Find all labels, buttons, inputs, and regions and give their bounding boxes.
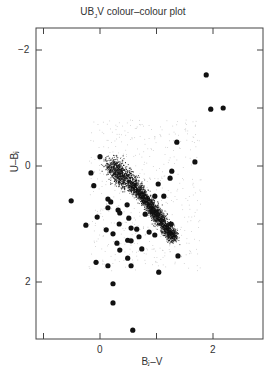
y-tick-0: 0 <box>25 160 31 171</box>
quasar-point <box>126 216 131 221</box>
quasar-point <box>83 223 88 228</box>
quasar-point <box>97 154 102 159</box>
quasar-point <box>108 199 113 204</box>
quasar-point <box>114 241 119 246</box>
quasar-point <box>156 181 161 186</box>
quasar-point <box>152 194 157 199</box>
y-tick-minus2: −2 <box>18 44 29 55</box>
star-locus-cloud <box>89 120 202 272</box>
quasar-point <box>93 260 98 265</box>
quasar-point <box>149 209 154 214</box>
axis-ticks <box>36 28 263 339</box>
quasar-point <box>221 105 226 110</box>
quasar-point <box>169 221 174 226</box>
quasar-point <box>110 231 115 236</box>
x-tick-2: 2 <box>210 344 216 355</box>
quasar-point <box>110 300 115 305</box>
quasar-point <box>91 183 96 188</box>
y-axis-label: U–Bⱼ <box>9 142 20 182</box>
quasar-point <box>134 227 139 232</box>
quasar-point <box>169 169 174 174</box>
quasar-point <box>128 263 133 268</box>
quasar-point <box>174 140 179 145</box>
quasar-point <box>104 227 109 232</box>
quasar-point <box>139 246 144 251</box>
quasar-point <box>117 248 122 253</box>
quasar-point <box>128 238 133 243</box>
quasar-point <box>167 176 172 181</box>
quasar-point <box>88 170 93 175</box>
quasar-point <box>117 221 122 226</box>
quasar-point <box>156 270 161 275</box>
quasar-point <box>147 230 152 235</box>
x-axis-label: Bⱼ–V <box>0 356 266 367</box>
y-tick-2: 2 <box>25 276 31 287</box>
quasar-point <box>110 281 115 286</box>
quasar-point <box>161 194 166 199</box>
quasar-point <box>95 214 100 219</box>
quasar-point <box>128 225 133 230</box>
quasar-point <box>208 107 213 112</box>
quasar-point <box>204 72 209 77</box>
quasar-point <box>136 234 141 239</box>
quasar-point <box>117 210 122 215</box>
quasar-point <box>143 212 148 217</box>
quasar-point <box>152 232 157 237</box>
x-tick-0: 0 <box>97 344 103 355</box>
quasar-point <box>175 253 180 258</box>
quasar-point <box>69 198 74 203</box>
quasar-point <box>125 202 130 207</box>
quasar-point <box>105 205 110 210</box>
plot-frame <box>36 28 263 339</box>
quasar-point <box>125 256 130 261</box>
quasar-point <box>192 159 197 164</box>
quasar-point <box>105 263 110 268</box>
quasar-point <box>130 328 135 333</box>
scatter-plot <box>0 0 266 377</box>
